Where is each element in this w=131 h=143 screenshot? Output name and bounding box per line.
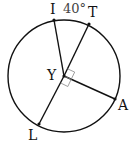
label-L: L — [28, 127, 37, 143]
radius-YL — [39, 76, 64, 124]
point-Y — [62, 74, 65, 77]
point-T — [87, 22, 90, 25]
label-T: T — [88, 4, 98, 20]
radius-YT — [64, 24, 89, 76]
point-A — [113, 97, 116, 100]
point-I — [52, 18, 55, 21]
label-Y: Y — [46, 67, 57, 83]
label-angle: 40° — [63, 1, 86, 16]
label-I: I — [50, 1, 56, 17]
label-A: A — [117, 97, 129, 113]
radius-YA — [64, 76, 115, 99]
circle-diagram: I 40° T Y A L — [0, 0, 131, 143]
point-L — [37, 122, 40, 125]
